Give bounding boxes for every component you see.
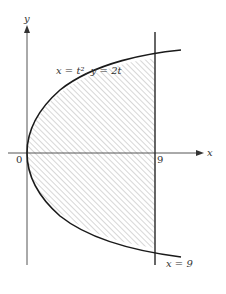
x-tick-label-9: 9	[157, 154, 163, 165]
x-axis-label: x	[207, 147, 213, 158]
y-axis-label: y	[23, 13, 30, 24]
curve-equation-label: x = t², y = 2t	[56, 65, 123, 76]
y-axis-arrow-icon	[24, 25, 30, 33]
line-equation-label: x = 9	[166, 258, 193, 269]
x-axis-arrow-icon	[196, 150, 204, 156]
origin-label: 0	[16, 154, 22, 165]
parametric-region-diagram: y x 0 9 x = t², y = 2t x = 9	[0, 0, 226, 294]
